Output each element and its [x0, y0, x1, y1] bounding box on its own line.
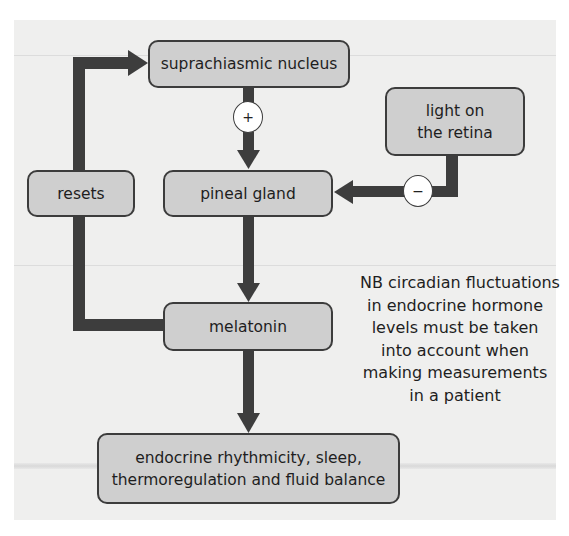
node-resets: resets: [27, 170, 135, 217]
light-to-pineal-arrowhead: [334, 180, 353, 204]
node-label-line2: thermoregulation and fluid balance: [112, 469, 386, 491]
node-label: resets: [57, 183, 104, 205]
node-melatonin: melatonin: [163, 302, 333, 351]
minus-sign-label: −: [412, 183, 424, 199]
scn-to-pineal-arrowhead: [237, 150, 260, 169]
note-line: in endocrine hormone: [360, 295, 550, 318]
resets-to-scn-horizontal: [73, 57, 133, 69]
melatonin-to-effects-arrowhead: [237, 413, 260, 433]
node-pineal-gland: pineal gland: [163, 170, 333, 217]
melatonin-to-effects-shaft: [243, 350, 254, 416]
node-label-line1: light on: [417, 100, 493, 122]
melatonin-to-resets-vertical: [73, 216, 85, 331]
note-line: into account when: [360, 340, 550, 363]
node-label: pineal gland: [200, 183, 296, 205]
pineal-to-melatonin-arrowhead: [237, 283, 260, 302]
node-label: suprachiasmic nucleus: [161, 53, 338, 75]
node-label-line2: the retina: [417, 122, 493, 144]
minus-sign-icon: −: [403, 175, 433, 207]
melatonin-to-resets-line: [73, 319, 165, 331]
plus-sign-icon: +: [233, 101, 263, 133]
node-label-line1: endocrine rhythmicity, sleep,: [112, 447, 386, 469]
nb-note: NB circadian fluctuations in endocrine h…: [360, 272, 550, 407]
note-line: making measurements: [360, 362, 550, 385]
node-suprachiasmic-nucleus: suprachiasmic nucleus: [148, 40, 350, 88]
resets-to-scn-arrowhead: [128, 50, 148, 76]
note-line: NB circadian fluctuations: [360, 272, 550, 295]
pineal-to-melatonin-shaft: [243, 216, 254, 286]
note-line: in a patient: [360, 385, 550, 408]
node-label: melatonin: [209, 316, 287, 338]
resets-to-scn-vertical: [73, 57, 85, 171]
node-light-on-retina: light on the retina: [385, 87, 525, 156]
plus-sign-label: +: [242, 109, 254, 125]
node-effects: endocrine rhythmicity, sleep, thermoregu…: [97, 433, 400, 504]
note-line: levels must be taken: [360, 317, 550, 340]
